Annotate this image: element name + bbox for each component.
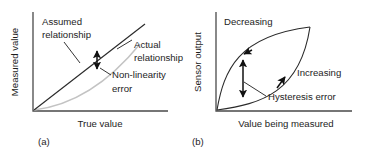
- hysteresis-error-label: Hysteresis error: [268, 91, 337, 102]
- increasing-label: Increasing: [297, 67, 341, 78]
- assumed-relationship-label-line1: Assumed: [42, 16, 82, 27]
- panel-a-y-axis-label: Measured value: [9, 28, 20, 96]
- decreasing-label: Decreasing: [224, 16, 273, 27]
- assumed-relationship-label-line2: relationship: [42, 29, 91, 40]
- actual-relationship-label-line1: Actual: [134, 39, 161, 50]
- non-linearity-error-label-line1: Non-linearity: [112, 69, 166, 80]
- panel-b-x-axis-label: Value being measured: [238, 118, 333, 129]
- non-linearity-error-leader: [100, 68, 111, 75]
- panel-a: Assumed relationship Actual relationship…: [9, 12, 183, 147]
- panel-a-x-axis-label: True value: [78, 118, 123, 129]
- panel-b-caption: (b): [192, 136, 204, 147]
- actual-relationship-label-line2: relationship: [134, 52, 183, 63]
- hysteresis-error-leader: [244, 82, 266, 96]
- non-linearity-error-label-line2: error: [112, 83, 133, 94]
- panel-b: Decreasing Increasing Hysteresis error V…: [192, 12, 352, 147]
- sensor-error-diagram: Assumed relationship Actual relationship…: [0, 0, 365, 151]
- panel-a-caption: (a): [38, 136, 50, 147]
- increasing-direction-arrow: [277, 77, 285, 88]
- assumed-relationship-leader: [64, 42, 80, 63]
- figure-root: Assumed relationship Actual relationship…: [0, 0, 365, 151]
- panel-b-y-axis-label: Sensor output: [192, 32, 203, 92]
